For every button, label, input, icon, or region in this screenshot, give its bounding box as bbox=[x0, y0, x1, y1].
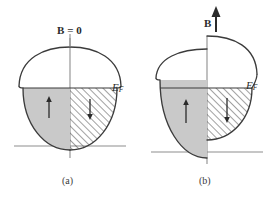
magnetic-field-arrow-icon bbox=[212, 6, 221, 32]
panel-a-left-flare bbox=[19, 86, 23, 88]
fermi-subscript-b: F bbox=[253, 83, 258, 92]
physics-diagram-svg bbox=[0, 0, 274, 198]
fermi-subscript-a: F bbox=[119, 85, 124, 94]
panel-a-caption: (a) bbox=[62, 175, 73, 186]
panel-b-left-flare bbox=[156, 78, 160, 80]
panel-b-right-upper-dome bbox=[207, 36, 257, 74]
panel-a-fermi-label: EF bbox=[112, 81, 123, 94]
panel-b-left-upper-dome bbox=[156, 49, 207, 78]
fermi-symbol-a: E bbox=[112, 81, 119, 93]
panel-b-spin-up-fill bbox=[160, 80, 207, 158]
fermi-symbol-b: E bbox=[246, 79, 253, 91]
panel-a-spin-down-fill bbox=[70, 88, 117, 150]
panel-b-caption: (b) bbox=[199, 175, 211, 186]
panel-b-fermi-label: EF bbox=[246, 79, 257, 92]
panel-a-spin-up-fill bbox=[23, 88, 70, 150]
panel-a bbox=[14, 34, 126, 158]
panel-b-field-label: B bbox=[204, 17, 211, 29]
panel-a-field-label: B = 0 bbox=[57, 24, 82, 36]
panel-b-spin-down-fill bbox=[207, 88, 252, 140]
figure-container: B = 0 B EF EF (a) (b) bbox=[0, 0, 274, 198]
